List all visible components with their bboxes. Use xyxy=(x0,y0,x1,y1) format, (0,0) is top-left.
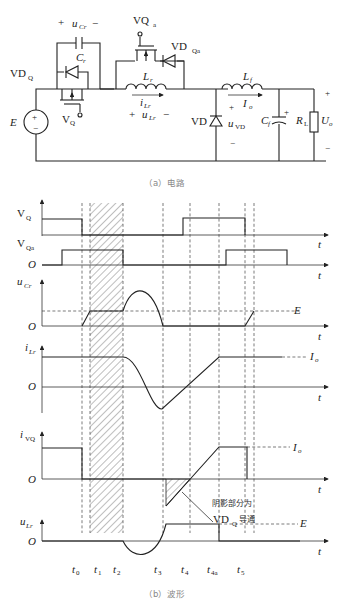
time-axis-labels: t0 t1 t2 t3 t4 t4a t5 xyxy=(72,563,245,577)
svg-text:0: 0 xyxy=(76,569,80,577)
svg-text:t: t xyxy=(318,238,322,250)
svg-text:V: V xyxy=(17,207,25,219)
svg-text:+: + xyxy=(325,88,330,98)
svg-text:Qa: Qa xyxy=(26,244,35,252)
svg-text:o: o xyxy=(249,103,253,111)
svg-text:+: + xyxy=(229,102,234,112)
svg-text:u: u xyxy=(17,275,23,287)
trace-ivq: i VQ O I o t xyxy=(20,428,328,522)
diode-vdq-icon xyxy=(66,66,78,78)
svg-text:+: + xyxy=(284,107,289,117)
svg-text:t: t xyxy=(318,483,322,495)
svg-text:V: V xyxy=(62,113,70,125)
svg-text:1: 1 xyxy=(98,569,102,577)
svg-text:VD: VD xyxy=(171,40,187,52)
trace-ilr: i Lr O I o t xyxy=(25,341,328,413)
svg-text:Q: Q xyxy=(28,74,33,82)
svg-text:3: 3 xyxy=(158,569,162,577)
svg-text:+: + xyxy=(32,112,37,122)
voltage-source-icon: + − xyxy=(24,110,48,134)
svg-text:V: V xyxy=(17,237,25,249)
svg-text:−: − xyxy=(92,17,98,29)
caption-waveforms: （b）波形 xyxy=(144,589,185,599)
svg-text:Lr: Lr xyxy=(28,348,36,356)
figure-canvas: + − E + u Cr − C r VD Q xyxy=(0,0,342,606)
diode-vd-icon xyxy=(210,116,222,126)
svg-text:L: L xyxy=(142,70,149,82)
svg-text:i: i xyxy=(140,96,143,108)
svg-text:i: i xyxy=(25,341,28,353)
svg-text:Qa: Qa xyxy=(192,47,201,55)
svg-text:O: O xyxy=(28,535,36,547)
svg-text:5: 5 xyxy=(241,569,245,577)
svg-text:−: − xyxy=(230,138,235,148)
waveform-diagram: V Q V Qa O t t u Cr O E t xyxy=(17,200,328,577)
svg-text:O: O xyxy=(28,258,36,270)
svg-text:+: + xyxy=(129,108,135,120)
caption-circuit: （a）电路 xyxy=(144,178,185,188)
svg-text:导通: 导通 xyxy=(239,514,255,524)
inductor-lf-icon xyxy=(222,84,262,89)
svg-text:L: L xyxy=(304,120,308,128)
svg-text:−: − xyxy=(163,108,169,120)
svg-text:R: R xyxy=(295,114,303,126)
svg-text:o: o xyxy=(298,447,302,455)
svg-text:f: f xyxy=(268,120,271,128)
trace-vqa: V Qa O t t xyxy=(17,237,328,281)
svg-text:Lr: Lr xyxy=(148,114,156,122)
svg-text:L: L xyxy=(242,70,249,82)
svg-text:Q: Q xyxy=(70,119,75,127)
svg-text:4: 4 xyxy=(185,569,189,577)
source-label: E xyxy=(9,116,17,128)
svg-text:VQ: VQ xyxy=(133,14,149,26)
svg-text:u: u xyxy=(72,17,78,29)
svg-text:+: + xyxy=(58,16,64,28)
svg-text:O: O xyxy=(28,380,36,392)
svg-text:t: t xyxy=(318,545,322,557)
svg-text:VD: VD xyxy=(213,513,229,525)
annotation-text: 阴影部分为 xyxy=(212,498,252,508)
svg-text:E: E xyxy=(293,304,301,316)
svg-text:u: u xyxy=(228,117,234,129)
svg-text:Lr: Lr xyxy=(25,522,33,530)
svg-text:Cr: Cr xyxy=(79,23,87,31)
svg-text:Q: Q xyxy=(26,214,31,222)
hatched-region xyxy=(90,203,123,533)
svg-text:2: 2 xyxy=(117,569,121,577)
resistor-rl-icon xyxy=(310,112,318,132)
svg-text:VD: VD xyxy=(235,123,245,131)
svg-text:E: E xyxy=(299,517,307,529)
trace-ucr: u Cr O E t xyxy=(17,275,328,342)
trace-ulr: u Lr O E t xyxy=(20,515,328,557)
svg-text:Cr: Cr xyxy=(24,282,32,290)
svg-text:O: O xyxy=(28,473,36,485)
svg-text:VD: VD xyxy=(191,115,207,127)
svg-text:r: r xyxy=(150,76,153,84)
svg-text:t: t xyxy=(318,391,322,403)
svg-text:t: t xyxy=(318,269,322,281)
svg-text:VQ: VQ xyxy=(25,435,35,443)
svg-text:−: − xyxy=(33,123,38,133)
svg-text:t: t xyxy=(318,330,322,342)
svg-text:f: f xyxy=(250,76,253,84)
svg-text:r: r xyxy=(83,57,86,65)
svg-text:O: O xyxy=(28,320,36,332)
trace-vq: V Q xyxy=(17,200,328,236)
svg-text:I: I xyxy=(242,97,248,109)
svg-text:u: u xyxy=(142,108,148,120)
inductor-lr-icon xyxy=(126,84,166,89)
svg-text:VD: VD xyxy=(10,67,26,79)
svg-text:−: − xyxy=(325,143,330,153)
svg-text:i: i xyxy=(20,428,23,440)
svg-text:o: o xyxy=(315,356,319,364)
svg-text:4a: 4a xyxy=(211,569,219,577)
svg-text:a: a xyxy=(153,21,157,29)
svg-text:o: o xyxy=(329,120,333,128)
ground-wire xyxy=(36,134,326,161)
circuit-diagram: + − E + u Cr − C r VD Q xyxy=(9,14,333,161)
mosfet-vqa-icon xyxy=(135,32,157,61)
capacitor-cf-icon xyxy=(272,117,286,124)
